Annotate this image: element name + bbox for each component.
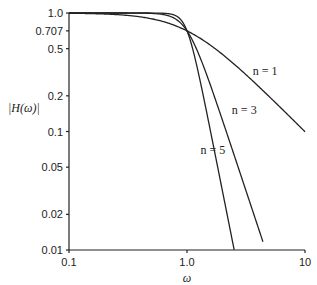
series-label-n-1: n = 1 (253, 64, 278, 78)
curve-n-3 (69, 13, 263, 242)
series-label-n-3: n = 3 (232, 103, 257, 117)
y-tick-label: 1.0 (48, 7, 63, 19)
x-tick-label: 10 (299, 256, 311, 268)
series-label-n-5: n = 5 (200, 143, 225, 157)
curve-n-5 (69, 13, 234, 250)
x-tick-label: 0.1 (61, 256, 76, 268)
y-tick-label: 0.01 (42, 244, 63, 256)
y-tick-label: 0.05 (42, 161, 63, 173)
y-tick-label: 0.5 (48, 43, 63, 55)
y-tick-label: 0.02 (42, 208, 63, 220)
curves (69, 13, 305, 250)
axes: 1.00.7070.50.20.10.050.020.010.11.010 (35, 7, 311, 268)
butterworth-chart: 1.00.7070.50.20.10.050.020.010.11.010 ω|… (0, 0, 317, 285)
y-tick-label: 0.707 (35, 25, 63, 37)
x-tick-label: 1.0 (179, 256, 194, 268)
x-axis-label: ω (183, 271, 191, 285)
y-tick-label: 0.2 (48, 90, 63, 102)
y-tick-label: 0.1 (48, 126, 63, 138)
y-axis-label: |H(ω)| (8, 101, 40, 115)
